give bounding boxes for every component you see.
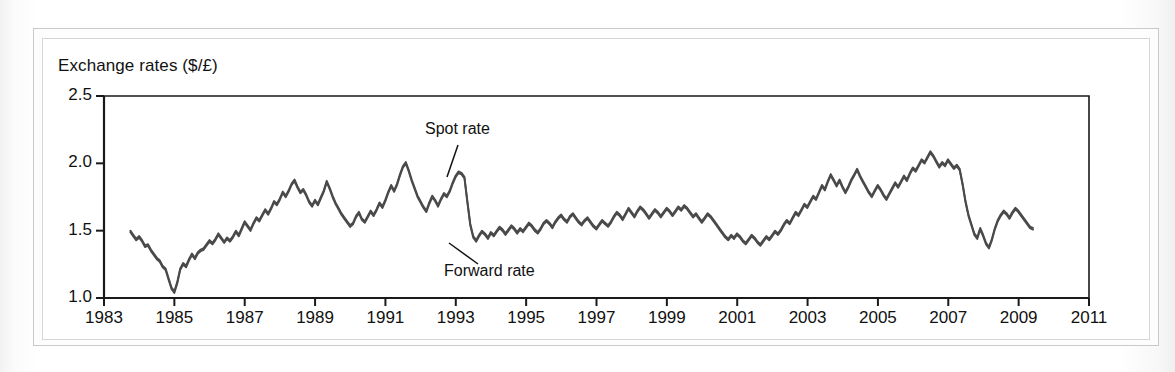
x-axis-tick-label: 1991 [355, 308, 415, 328]
x-axis-tick-label: 1995 [496, 308, 556, 328]
annotation-label-spot-rate: Spot rate [425, 120, 490, 138]
annotation-leader-forward-rate [449, 243, 478, 264]
x-axis-tick-label: 1983 [74, 308, 134, 328]
series-line-spot-rate [130, 151, 1033, 291]
plot-axes [96, 96, 1089, 306]
annotation-leader-lines [447, 145, 478, 264]
x-axis-tick-label: 2005 [848, 308, 908, 328]
x-axis-tick-label: 1985 [144, 308, 204, 328]
y-axis-tick-label: 2.0 [48, 152, 92, 172]
x-axis-tick-label: 2011 [1059, 308, 1119, 328]
annotation-label-forward-rate: Forward rate [444, 262, 535, 280]
x-axis-tick-label: 2007 [918, 308, 978, 328]
annotation-leader-spot-rate [447, 145, 458, 177]
x-axis-tick-label: 1987 [215, 308, 275, 328]
x-axis-tick-label: 2009 [989, 308, 1049, 328]
chart: Exchange rates ($/£) 1.01.52.02.5 198319… [0, 0, 1175, 372]
y-axis-tick-label: 1.0 [48, 287, 92, 307]
x-axis-tick-label: 2001 [707, 308, 767, 328]
x-axis-tick-label: 1993 [426, 308, 486, 328]
x-axis-tick-label: 1989 [285, 308, 345, 328]
plot-series [130, 151, 1033, 293]
figure-root: Exchange rates ($/£) 1.01.52.02.5 198319… [0, 0, 1175, 372]
y-axis-tick-label: 1.5 [48, 220, 92, 240]
x-axis-tick-label: 1997 [567, 308, 627, 328]
x-axis-tick-label: 1999 [637, 308, 697, 328]
x-axis-tick-label: 2003 [778, 308, 838, 328]
y-axis-tick-label: 2.5 [48, 85, 92, 105]
